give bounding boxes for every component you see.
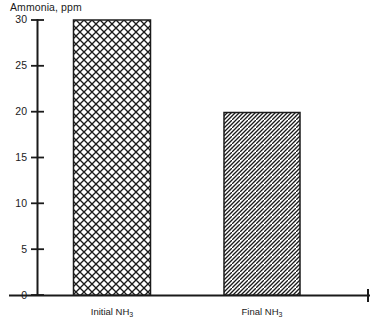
x-category-label-initial-text: Initial NH <box>91 306 130 317</box>
y-tick-label-10: 10 <box>3 198 27 208</box>
x-category-label-initial-sub: 3 <box>129 311 133 318</box>
bar-final-nh3 <box>224 113 300 296</box>
y-tick-label-0: 0 <box>3 290 27 300</box>
x-category-label-final-text: Final NH <box>242 306 279 317</box>
y-tick-label-5: 5 <box>3 244 27 254</box>
y-tick-label-30: 30 <box>3 14 27 24</box>
x-category-label-final: Final NH3 <box>222 306 302 318</box>
y-tick-label-20: 20 <box>3 106 27 116</box>
x-category-label-initial: Initial NH3 <box>72 306 152 318</box>
chart-plot-area <box>0 0 379 328</box>
y-tick-label-15: 15 <box>3 152 27 162</box>
x-category-label-final-sub: 3 <box>279 311 283 318</box>
bar-chart: Ammonia, ppm <box>0 0 379 328</box>
bar-initial-nh3 <box>74 20 151 295</box>
y-tick-label-25: 25 <box>3 60 27 70</box>
